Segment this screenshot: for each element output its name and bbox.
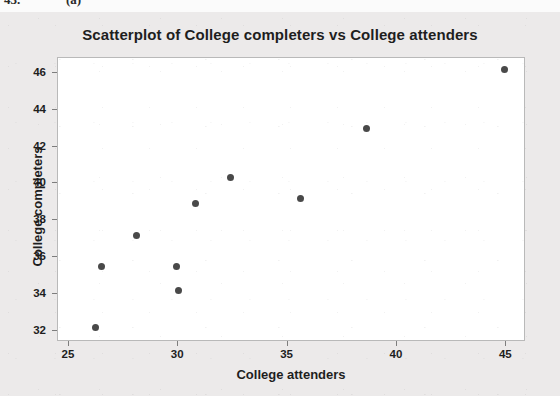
y-tick-label: 36 — [6, 250, 46, 262]
y-tick-mark — [52, 293, 57, 294]
x-tick-label: 25 — [48, 348, 88, 360]
y-tick-mark — [52, 182, 57, 183]
y-tick-mark — [52, 146, 57, 147]
x-axis-label: College attenders — [57, 367, 525, 382]
x-tick-mark — [396, 341, 397, 346]
y-tick-label: 46 — [6, 66, 46, 78]
y-tick-mark — [52, 219, 57, 220]
x-tick-label: 40 — [376, 348, 416, 360]
y-tick-label: 44 — [6, 103, 46, 115]
data-point — [297, 195, 304, 202]
y-axis-label: College completers — [30, 107, 45, 307]
plot-area — [58, 58, 524, 340]
data-point — [133, 232, 140, 239]
y-tick-label: 42 — [6, 140, 46, 152]
data-point — [227, 174, 234, 181]
y-tick-mark — [52, 109, 57, 110]
y-tick-mark — [52, 330, 57, 331]
data-point — [175, 287, 182, 294]
data-point — [363, 125, 370, 132]
x-tick-label: 45 — [485, 348, 525, 360]
x-tick-label: 35 — [267, 348, 307, 360]
chart-title: Scatterplot of College completers vs Col… — [0, 26, 560, 43]
y-tick-label: 34 — [6, 287, 46, 299]
data-point — [501, 66, 508, 73]
data-point — [92, 324, 99, 331]
exercise-number: 43. — [4, 0, 20, 8]
data-point — [98, 263, 105, 270]
y-tick-label: 32 — [6, 324, 46, 336]
y-tick-mark — [52, 256, 57, 257]
data-point — [192, 200, 199, 207]
x-tick-mark — [287, 341, 288, 346]
y-tick-label: 40 — [6, 176, 46, 188]
scatterplot-figure: Scatterplot of College completers vs Col… — [0, 12, 560, 396]
y-tick-mark — [52, 72, 57, 73]
plot-frame — [57, 57, 525, 341]
x-tick-mark — [68, 341, 69, 346]
y-tick-label: 38 — [6, 213, 46, 225]
data-point — [173, 263, 180, 270]
scanned-page-header-artifact: 43. (a) — [0, 0, 560, 12]
exercise-part-label: (a) — [66, 0, 81, 8]
x-tick-mark — [505, 341, 506, 346]
x-tick-label: 30 — [157, 348, 197, 360]
x-tick-mark — [177, 341, 178, 346]
